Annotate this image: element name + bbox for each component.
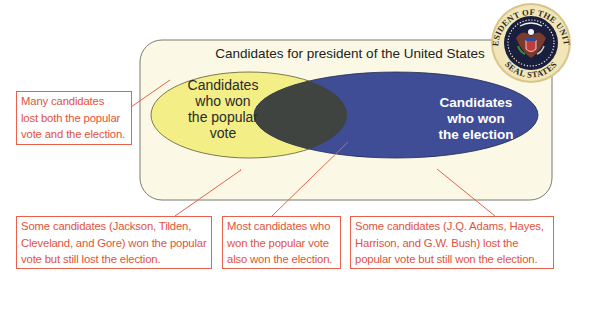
label-line: vote — [167, 125, 279, 141]
callout-line: Cleveland, and Gore) won the popular — [21, 235, 207, 252]
popular-vote-set-label: Candidates who won the popular vote — [167, 77, 279, 141]
label-line: the popular — [167, 109, 279, 125]
callout-election-only: Some candidates (J.Q. Adams, Hayes, Harr… — [350, 216, 554, 269]
callout-both: Most candidates who won the popular vote… — [222, 216, 341, 269]
diagram-title: Candidates for president of the United S… — [150, 46, 550, 61]
callout-line: Some candidates (Jackson, Tilden, — [21, 218, 207, 235]
election-set-label: Candidates who won the election — [420, 95, 532, 143]
callout-line: Harrison, and G.W. Bush) lost the — [355, 235, 549, 252]
label-line: Candidates — [420, 95, 532, 111]
callout-line: Many candidates — [21, 93, 127, 110]
label-line: who won — [167, 93, 279, 109]
callout-line: Some candidates (J.Q. Adams, Hayes, — [355, 218, 549, 235]
label-line: who won — [420, 111, 532, 127]
callout-line: vote and the election. — [21, 126, 127, 143]
callout-line: vote but still lost the election. — [21, 251, 207, 268]
label-line: Candidates — [167, 77, 279, 93]
callout-line: popular vote but still won the election. — [355, 251, 549, 268]
callout-line: won the popular vote — [227, 235, 336, 252]
callout-line: Most candidates who — [227, 218, 336, 235]
callout-line: lost both the popular — [21, 110, 127, 127]
callout-neither: Many candidates lost both the popular vo… — [16, 91, 132, 145]
callout-line: also won the election. — [227, 251, 336, 268]
venn-diagram: PRESIDENT OF THE UNITED SEAL STATES Cand… — [0, 0, 592, 309]
callout-popular-only: Some candidates (Jackson, Tilden, Clevel… — [16, 216, 212, 269]
label-line: the election — [420, 127, 532, 143]
